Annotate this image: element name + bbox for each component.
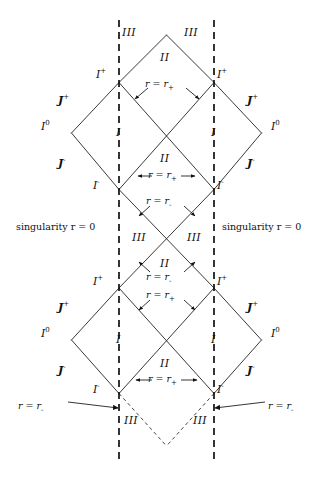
infinity-scri-minus-lower-left: J- <box>58 364 66 376</box>
region-label-I-upper-right: I <box>211 127 216 138</box>
infinity-i-plus-upper-right: I+ <box>217 68 227 80</box>
infinity-i-plus-upper-left: I+ <box>96 68 106 80</box>
infinity-scri-plus-upper-right: J+ <box>247 94 258 106</box>
infinity-i-zero-lower-left: I0 <box>41 327 50 339</box>
infinity-i-zero-lower-right: I0 <box>271 327 280 339</box>
region-label-III-top-right: III <box>184 27 198 38</box>
horizon-label-rplus-bottom: r = r+ <box>148 374 177 387</box>
infinity-scri-plus-lower-right: J+ <box>247 301 258 313</box>
region-label-III-bottom-right: III <box>193 415 207 426</box>
edge-top-right <box>167 35 215 83</box>
region-label-I-lower-right: I <box>211 334 216 345</box>
singularity-label-right: singularity r = 0 <box>222 222 301 232</box>
region-label-III-mid-left: III <box>132 232 146 243</box>
region-label-II-mid-lower: II <box>160 258 169 269</box>
infinity-i-zero-upper-right: I0 <box>271 120 280 132</box>
arrow-rminus-bottom-right <box>215 402 265 408</box>
arrow-rplus-lower-right <box>184 300 195 310</box>
infinity-scri-minus-lower-right: J- <box>247 364 255 376</box>
infinity-i-plus-lower-left: I+ <box>93 275 103 287</box>
region-label-II-bottom: II <box>160 358 169 369</box>
arrow-rplus-top-right <box>186 88 199 99</box>
region-label-I-upper-left: I <box>116 127 121 138</box>
horizon-label-rminus-bottom-left: r = r- <box>18 401 43 414</box>
infinity-scri-minus-upper-right: J- <box>247 157 255 169</box>
region-label-II-top: II <box>160 52 169 63</box>
infinity-scri-minus-upper-left: J- <box>58 157 66 169</box>
region-label-III-bottom-left: III <box>124 415 138 426</box>
edge-ll-diamond-tl <box>72 288 120 340</box>
horizon-label-rminus-lower: r = r- <box>146 272 171 285</box>
horizon-label-rplus-lower: r = r+ <box>146 290 175 303</box>
infinity-scri-plus-lower-left: J+ <box>58 301 69 313</box>
infinity-i-minus-upper-left: I- <box>93 179 100 191</box>
horizon-label-rplus-mid: r = r+ <box>148 170 177 183</box>
region-label-I-lower-left: I <box>116 334 121 345</box>
infinity-i-minus-lower-right: I- <box>217 383 224 395</box>
region-label-III-mid-right: III <box>187 232 201 243</box>
edge-lr-diamond-tr <box>214 288 262 340</box>
infinity-i-minus-lower-left: I- <box>93 383 100 395</box>
singularity-label-left: singularity r = 0 <box>16 222 95 232</box>
arrow-rminus-bottom-left <box>68 402 118 408</box>
infinity-i-zero-upper-left: I0 <box>41 120 50 132</box>
region-label-II-upper-mid: II <box>160 153 169 164</box>
horizon-label-rminus-bottom-right: r = r- <box>268 401 293 414</box>
edge-ul-diamond-tl <box>72 83 120 134</box>
edge-ur-diamond-tr <box>214 83 262 134</box>
region-label-III-top-left: III <box>122 27 136 38</box>
infinity-scri-plus-upper-left: J+ <box>58 94 69 106</box>
infinity-i-minus-upper-right: I- <box>217 179 224 191</box>
horizon-label-rminus-upper: r = r- <box>146 196 171 209</box>
infinity-i-plus-lower-right: I+ <box>217 275 227 287</box>
horizon-label-rplus-top: r = r+ <box>145 79 174 92</box>
